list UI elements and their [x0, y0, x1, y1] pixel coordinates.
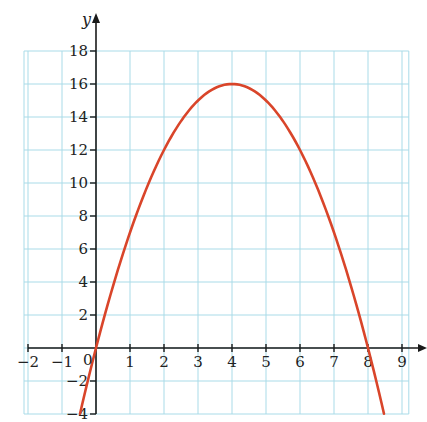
y-tick-label: 8 — [78, 207, 88, 225]
parabola-chart: −2−1123456789−4−224681012141618 y 0 — [0, 0, 427, 422]
x-tick-label: 2 — [159, 353, 169, 371]
y-tick-label: 16 — [69, 75, 88, 93]
x-tick-label: 7 — [329, 353, 339, 371]
x-tick-label: 6 — [295, 353, 305, 371]
x-tick-label: 1 — [125, 353, 135, 371]
y-tick-label: 12 — [69, 141, 88, 159]
grid-lines — [24, 51, 409, 414]
y-tick-label: 14 — [69, 108, 88, 126]
y-tick-label: 4 — [78, 273, 88, 291]
y-tick-label: 10 — [69, 174, 88, 192]
y-tick-label: −4 — [66, 405, 88, 422]
x-tick-label: −2 — [17, 353, 39, 371]
origin-label: 0 — [83, 351, 93, 369]
x-axis-arrow-icon — [418, 344, 427, 352]
y-tick-label: −2 — [66, 372, 88, 390]
axis-ticks: −2−1123456789−4−224681012141618 — [17, 42, 407, 422]
x-tick-label: −1 — [51, 353, 73, 371]
y-axis-arrow-icon — [92, 13, 100, 23]
x-tick-label: 4 — [227, 353, 237, 371]
y-tick-label: 2 — [78, 306, 88, 324]
y-tick-label: 6 — [78, 240, 88, 258]
x-tick-label: 3 — [193, 353, 203, 371]
x-tick-label: 9 — [397, 353, 407, 371]
y-tick-label: 18 — [69, 42, 88, 60]
x-tick-label: 5 — [261, 353, 271, 371]
y-axis-label: y — [81, 10, 92, 29]
